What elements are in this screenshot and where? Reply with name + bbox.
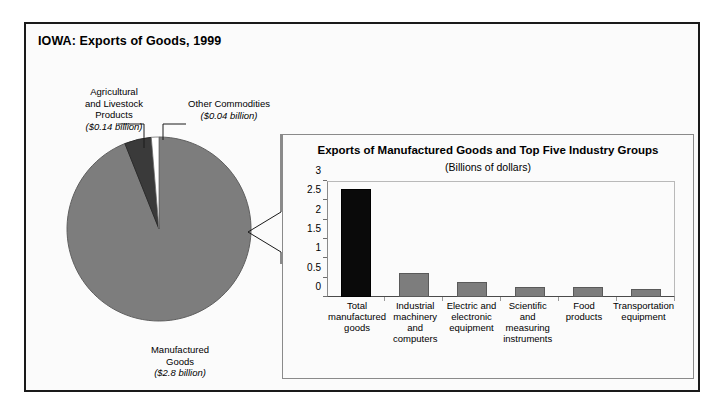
inset-bar-chart-panel: Exports of Manufactured Goods and Top Fi… xyxy=(282,134,694,379)
x-axis-tick-label: Industrialmachinery andcomputers xyxy=(387,300,443,344)
y-axis-tick-label: 1.5 xyxy=(307,223,321,234)
bar xyxy=(515,287,545,297)
bar-slot xyxy=(559,181,617,297)
inset-chart-subtitle: (Billions of dollars) xyxy=(283,161,693,173)
bar xyxy=(573,287,603,297)
bar-slot xyxy=(385,181,443,297)
bar-slot xyxy=(443,181,501,297)
x-axis-tick-label: Food products xyxy=(556,300,612,344)
y-axis-tick-label: 2.5 xyxy=(307,184,321,195)
x-axis-tick-label: Transportationequipment xyxy=(612,300,675,344)
y-axis-tick-label: 2 xyxy=(315,203,321,214)
x-axis-tick-label: Scientificand measuringinstruments xyxy=(500,300,556,344)
figure-frame: IOWA: Exports of Goods, 1999 Agricultura… xyxy=(24,22,700,392)
y-axis-tick-label: 0.5 xyxy=(307,261,321,272)
plot-area: 00.511.522.53 xyxy=(327,181,675,297)
y-axis-tick-label: 3 xyxy=(315,165,321,176)
bar-series xyxy=(327,181,675,297)
x-axis-labels: TotalmanufacturedgoodsIndustrialmachiner… xyxy=(327,300,675,344)
y-axis-tick-label: 0 xyxy=(315,281,321,292)
bar-slot xyxy=(327,181,385,297)
bar xyxy=(399,273,429,297)
bar xyxy=(341,189,371,297)
bar xyxy=(631,289,661,298)
bar-slot xyxy=(617,181,675,297)
y-axis-tick-label: 1 xyxy=(315,242,321,253)
x-axis-tick-label: Totalmanufacturedgoods xyxy=(327,300,387,344)
bar-slot xyxy=(501,181,559,297)
inset-chart-title: Exports of Manufactured Goods and Top Fi… xyxy=(283,144,693,156)
x-axis-tick-label: Electric andelectronicequipment xyxy=(443,300,499,344)
bar xyxy=(457,282,487,297)
